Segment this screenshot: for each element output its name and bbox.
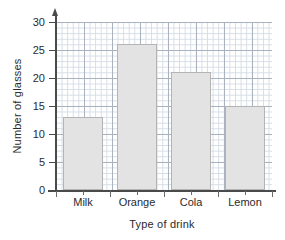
y-tick: [49, 106, 55, 107]
y-tick: [49, 78, 55, 79]
x-tick-label-lemon: Lemon: [210, 196, 280, 208]
x-axis-title: Type of drink: [52, 218, 272, 230]
y-tick: [49, 50, 55, 51]
y-tick: [49, 162, 55, 163]
y-tick-label: 20: [20, 72, 45, 84]
x-tick-minor: [191, 191, 192, 195]
bar-milk: [63, 117, 103, 190]
bar-chart-figure: Number of glasses Type of drink 05101520…: [0, 0, 285, 240]
y-tick-label: 15: [20, 100, 45, 112]
y-tick: [49, 190, 55, 191]
y-tick: [49, 134, 55, 135]
bar-cola: [171, 72, 211, 190]
bar-lemon: [225, 106, 265, 190]
y-tick: [49, 22, 55, 23]
y-tick-label: 30: [20, 16, 45, 28]
y-tick-label: 25: [20, 44, 45, 56]
y-tick-label: 5: [20, 156, 45, 168]
y-axis-line: [55, 14, 57, 191]
y-tick-label: 10: [20, 128, 45, 140]
x-tick-minor: [245, 191, 246, 195]
x-tick-minor: [83, 191, 84, 195]
y-axis-arrow-icon: [52, 8, 58, 16]
x-tick-minor: [137, 191, 138, 195]
y-tick-label: 0: [20, 184, 45, 196]
plot-area: [56, 22, 272, 190]
bar-orange: [117, 44, 157, 190]
